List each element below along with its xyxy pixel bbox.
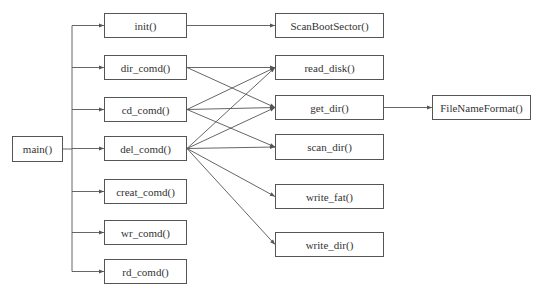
node-write-fat: write_fat()	[275, 184, 384, 209]
node-get-dir: get_dir()	[275, 95, 384, 120]
node-read-disk: read_disk()	[275, 55, 384, 80]
node-write-dir: write_dir()	[275, 232, 384, 257]
node-label: init()	[135, 20, 157, 32]
node-label: rd_comd()	[122, 266, 168, 278]
edge-layer	[0, 0, 541, 293]
node-filenameformat: FileNameFormat()	[432, 95, 531, 120]
node-label: get_dir()	[310, 102, 348, 114]
node-init: init()	[104, 13, 187, 38]
node-label: del_comd()	[120, 143, 171, 155]
node-wr-comd: wr_comd()	[104, 220, 187, 245]
node-dir-comd: dir_comd()	[104, 55, 187, 80]
node-main: main()	[12, 136, 63, 162]
arrow-del-comd-to-write-fat	[187, 149, 275, 197]
node-label: main()	[23, 143, 52, 155]
node-label: FileNameFormat()	[440, 102, 522, 114]
node-cd-comd: cd_comd()	[104, 97, 187, 122]
node-scan-dir: scan_dir()	[275, 134, 384, 160]
node-label: read_disk()	[304, 62, 354, 74]
node-label: wr_comd()	[121, 227, 170, 239]
node-rd-comd: rd_comd()	[104, 259, 187, 284]
node-label: dir_comd()	[121, 62, 170, 74]
node-label: creat_comd()	[116, 186, 175, 198]
node-scanbootsector: ScanBootSector()	[275, 13, 384, 38]
arrow-del-comd-to-get-dir	[187, 108, 275, 149]
node-label: cd_comd()	[122, 104, 170, 116]
arrow-del-comd-to-scan-dir	[187, 147, 275, 149]
node-creat-comd: creat_comd()	[104, 179, 187, 204]
node-label: scan_dir()	[307, 141, 352, 153]
node-label: write_dir()	[306, 239, 354, 251]
node-label: write_fat()	[306, 191, 353, 203]
node-del-comd: del_comd()	[104, 136, 187, 161]
call-graph-diagram: main()init()dir_comd()cd_comd()del_comd(…	[0, 0, 541, 293]
arrow-del-comd-to-write-dir	[187, 149, 275, 245]
node-label: ScanBootSector()	[290, 20, 368, 32]
